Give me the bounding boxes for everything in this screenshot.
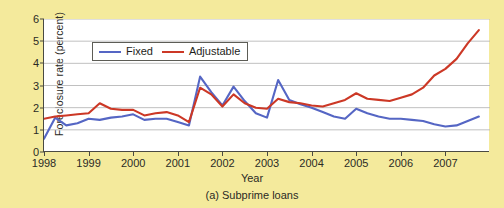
x-tick-label: 2005 xyxy=(344,158,368,169)
x-tick-mark xyxy=(44,151,45,156)
x-tick-mark xyxy=(267,151,268,156)
legend-label: Adjustable xyxy=(189,46,240,57)
figure-subprime-loans: Foreclosure rate (percent) 0123456 19981… xyxy=(0,0,504,208)
legend-entry-fixed: Fixed xyxy=(99,46,153,57)
x-tick-label: 1999 xyxy=(76,158,100,169)
x-tick-mark xyxy=(312,151,313,156)
y-tick-label: 2 xyxy=(33,102,39,113)
y-tick-mark xyxy=(40,19,44,20)
x-tick-label: 2000 xyxy=(121,158,145,169)
y-tick-label: 6 xyxy=(33,14,39,25)
y-tick-mark xyxy=(40,63,44,64)
plot-area: Foreclosure rate (percent) 0123456 19981… xyxy=(43,19,489,152)
gridlines xyxy=(44,19,490,130)
x-tick-mark xyxy=(401,151,402,156)
y-tick-label: 5 xyxy=(33,36,39,47)
y-tick-mark xyxy=(40,41,44,42)
chart-legend: FixedAdjustable xyxy=(92,42,248,61)
y-tick-label: 0 xyxy=(33,147,39,158)
x-tick-mark xyxy=(356,151,357,156)
legend-swatch-icon xyxy=(99,51,121,53)
x-tick-label: 2007 xyxy=(433,158,457,169)
legend-label: Fixed xyxy=(126,46,153,57)
x-axis-label: Year xyxy=(0,172,504,184)
x-tick-label: 2006 xyxy=(389,158,413,169)
figure-caption: (a) Subprime loans xyxy=(0,189,504,201)
x-tick-label: 2003 xyxy=(255,158,279,169)
x-tick-mark xyxy=(222,151,223,156)
legend-swatch-icon xyxy=(162,51,184,53)
x-tick-mark xyxy=(178,151,179,156)
x-tick-mark xyxy=(445,151,446,156)
y-tick-mark xyxy=(40,85,44,86)
x-tick-mark xyxy=(133,151,134,156)
chart-svg xyxy=(44,19,490,152)
y-tick-mark xyxy=(40,107,44,108)
x-tick-label: 2002 xyxy=(210,158,234,169)
x-tick-mark xyxy=(89,151,90,156)
legend-entry-adjustable: Adjustable xyxy=(162,46,240,57)
y-tick-label: 4 xyxy=(33,58,39,69)
y-tick-mark xyxy=(40,129,44,130)
y-tick-label: 1 xyxy=(33,124,39,135)
x-tick-label: 1998 xyxy=(32,158,56,169)
y-tick-label: 3 xyxy=(33,80,39,91)
x-tick-label: 2001 xyxy=(166,158,190,169)
x-tick-label: 2004 xyxy=(299,158,323,169)
